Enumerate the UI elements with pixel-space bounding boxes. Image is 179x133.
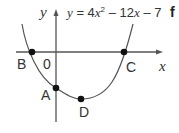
y-axis-label: y <box>38 4 47 20</box>
y-axis-arrow-icon <box>54 9 59 16</box>
point-d <box>78 96 85 103</box>
equation-tail: – 7 <box>140 5 162 20</box>
origin-label: 0 <box>43 56 51 72</box>
equation-label: y = 4x2 – 12x – 7 <box>65 5 161 20</box>
equation-coef: = 4 <box>73 5 95 20</box>
equation-mid: – 12 <box>105 5 134 20</box>
x-axis-label: x <box>158 58 166 74</box>
point-d-label: D <box>79 104 89 120</box>
point-a-label: A <box>41 87 51 103</box>
parabola-curve <box>22 24 133 99</box>
point-c-label: C <box>126 59 136 75</box>
part-label: f <box>170 4 175 20</box>
point-c <box>121 49 128 56</box>
point-b <box>29 49 36 56</box>
parabola-diagram: y x 0 y = 4x2 – 12x – 7 f B C A D <box>0 0 179 133</box>
point-a <box>53 85 60 92</box>
x-axis-arrow-icon <box>156 50 163 55</box>
point-b-label: B <box>17 56 26 72</box>
